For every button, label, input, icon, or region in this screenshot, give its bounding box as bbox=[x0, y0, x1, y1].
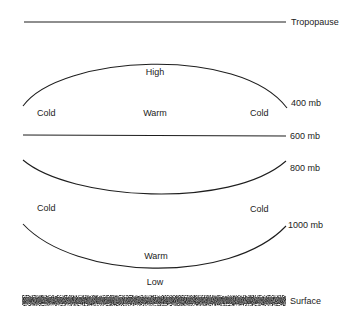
level-1000mb-label: 1000 mb bbox=[288, 220, 323, 230]
upper-left-cold-label: Cold bbox=[37, 108, 56, 118]
surface-band bbox=[22, 295, 286, 306]
high-pressure-label: High bbox=[146, 67, 165, 77]
upper-right-cold-label: Cold bbox=[250, 108, 269, 118]
low-pressure-label: Low bbox=[147, 277, 164, 287]
level-400mb-label: 400 mb bbox=[291, 98, 321, 108]
surface-label: Surface bbox=[290, 296, 321, 306]
tropopause-label: Tropopause bbox=[291, 17, 339, 27]
diagram-canvas bbox=[0, 0, 351, 322]
lower-right-cold-label: Cold bbox=[250, 204, 269, 214]
lower-warm-label: Warm bbox=[144, 251, 168, 261]
level-600mb-label: 600 mb bbox=[290, 131, 320, 141]
isobar-800mb-curve bbox=[23, 160, 286, 194]
upper-warm-label: Warm bbox=[143, 108, 167, 118]
lower-left-cold-label: Cold bbox=[37, 203, 56, 213]
isobar-1000mb-curve bbox=[23, 224, 286, 268]
pressure-level-diagram: Tropopause 400 mb 600 mb 800 mb 1000 mb … bbox=[0, 0, 351, 322]
isobar-600mb-line bbox=[23, 135, 286, 136]
level-800mb-label: 800 mb bbox=[290, 163, 320, 173]
